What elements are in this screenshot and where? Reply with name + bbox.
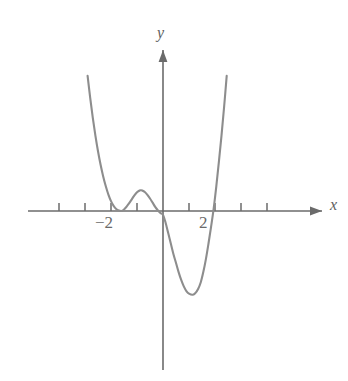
- plot-canvas: [0, 0, 348, 381]
- tick-label-positive-two: 2: [199, 213, 208, 233]
- x-axis-arrowhead: [310, 207, 322, 216]
- tick-label-negative-two: −2: [95, 213, 113, 233]
- graph-figure: x y −2 2: [0, 0, 348, 381]
- axes-group: [28, 50, 322, 370]
- x-axis-label: x: [330, 196, 337, 214]
- y-axis-arrowhead: [159, 50, 168, 62]
- y-axis-label: y: [157, 24, 164, 42]
- quartic-curve: [88, 76, 227, 295]
